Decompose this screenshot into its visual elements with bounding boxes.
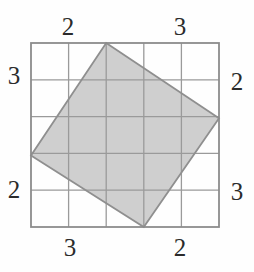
label-bottom-right: 2 — [165, 235, 195, 260]
grid-and-square-drawing — [0, 0, 254, 272]
label-right-lower: 3 — [222, 179, 252, 204]
label-top-left: 2 — [53, 14, 83, 39]
label-top-right: 3 — [165, 14, 195, 39]
label-bottom-left: 3 — [55, 235, 85, 260]
geometry-figure: 2 3 3 2 2 3 3 2 — [0, 0, 254, 272]
tilted-square-shape — [31, 43, 219, 227]
label-left-upper: 3 — [0, 63, 29, 88]
label-right-upper: 2 — [222, 69, 252, 94]
label-left-lower: 2 — [0, 177, 29, 202]
